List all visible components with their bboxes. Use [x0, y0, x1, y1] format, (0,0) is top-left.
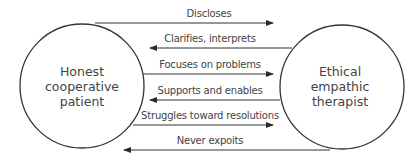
right-node-label: Ethical empathic therapist — [311, 64, 370, 109]
right-node-line-3: therapist — [311, 94, 370, 109]
arrow-label-clarifies: Clarifies, interprets — [164, 33, 255, 44]
arrow-label-focuses: Focuses on problems — [159, 59, 261, 70]
arrow-label-never-exploits: Never expoits — [177, 135, 244, 146]
arrow-label-discloses: Discloses — [187, 8, 232, 19]
right-node-line-2: empathic — [311, 79, 370, 94]
right-node-line-1: Ethical — [311, 64, 370, 79]
arrow-label-struggles: Struggles toward resolutions — [141, 110, 279, 121]
left-node-label: Honest cooperative patient — [45, 64, 119, 109]
arrow-label-supports: Supports and enables — [157, 85, 262, 96]
left-node-line-1: Honest — [45, 64, 119, 79]
left-node-line-3: patient — [45, 94, 119, 109]
left-node-line-2: cooperative — [45, 79, 119, 94]
